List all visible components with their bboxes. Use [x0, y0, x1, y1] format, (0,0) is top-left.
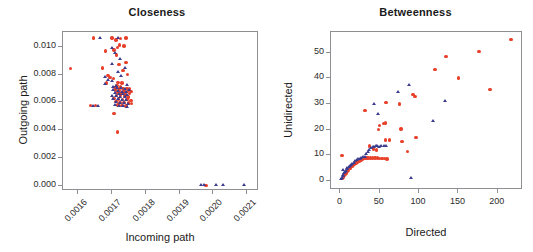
y-axis-title-closeness: Outgoing path	[17, 65, 29, 155]
y-tick-label: 0.006	[16, 95, 56, 105]
x-tick-label: 0.0021	[221, 197, 258, 234]
data-point-triangle	[123, 66, 127, 69]
data-point-circle	[433, 68, 436, 71]
scatter-points-betweenness	[331, 32, 521, 188]
x-tick-mark	[457, 189, 458, 193]
plot-area-betweenness	[330, 31, 522, 189]
data-point-circle	[413, 95, 416, 98]
y-tick-mark	[326, 103, 330, 104]
data-point-triangle	[363, 155, 367, 158]
data-point-circle	[398, 102, 401, 105]
data-point-triangle	[103, 82, 107, 85]
data-point-triangle	[431, 119, 435, 122]
data-point-triangle	[214, 183, 218, 186]
y-tick-mark	[58, 74, 62, 75]
data-point-triangle	[409, 176, 413, 179]
data-point-circle	[112, 112, 115, 115]
y-tick-label: 0.010	[16, 40, 56, 50]
x-tick-mark	[339, 189, 340, 193]
x-tick-mark	[77, 190, 78, 194]
x-tick-mark	[379, 189, 380, 193]
data-point-circle	[414, 136, 417, 139]
data-point-circle	[122, 44, 125, 47]
data-point-circle	[116, 130, 119, 133]
x-tick-label: 100	[398, 196, 438, 206]
y-tick-label: 0	[284, 174, 324, 184]
data-point-circle	[101, 66, 104, 69]
data-point-triangle	[202, 183, 206, 186]
data-point-circle	[375, 148, 378, 151]
data-point-circle	[399, 127, 402, 130]
y-tick-label: 30	[284, 97, 324, 107]
data-point-circle	[69, 67, 72, 70]
data-point-triangle	[91, 104, 95, 107]
data-point-circle	[130, 102, 133, 105]
x-tick-mark	[212, 190, 213, 194]
data-point-circle	[378, 124, 381, 127]
data-point-circle	[377, 128, 380, 131]
data-point-triangle	[376, 112, 380, 115]
x-tick-label: 150	[437, 196, 477, 206]
x-tick-mark	[246, 190, 247, 194]
data-point-circle	[384, 138, 387, 141]
x-tick-label: 0.0020	[188, 197, 225, 234]
y-tick-label: 0.008	[16, 68, 56, 78]
y-tick-mark	[58, 157, 62, 158]
data-point-triangle	[117, 104, 121, 107]
data-point-triangle	[396, 90, 400, 93]
data-point-triangle	[119, 74, 123, 77]
chart-title-betweenness: Betweenness	[270, 6, 533, 18]
data-point-triangle	[407, 83, 411, 86]
x-axis-title-betweenness: Directed	[330, 226, 522, 238]
y-tick-label: 0.000	[16, 179, 56, 189]
data-point-circle	[388, 138, 391, 141]
y-tick-mark	[58, 185, 62, 186]
data-point-triangle	[443, 99, 447, 102]
data-point-triangle	[125, 105, 129, 108]
x-tick-label: 200	[477, 196, 517, 206]
data-point-circle	[400, 140, 403, 143]
data-point-circle	[92, 36, 95, 39]
data-point-circle	[124, 61, 127, 64]
data-point-triangle	[98, 36, 102, 39]
y-tick-mark	[326, 180, 330, 181]
data-point-triangle	[221, 183, 225, 186]
y-tick-label: 0.002	[16, 151, 56, 161]
y-tick-label: 0.004	[16, 123, 56, 133]
data-point-triangle	[116, 36, 120, 39]
y-tick-label: 40	[284, 71, 324, 81]
data-point-circle	[385, 157, 388, 160]
data-point-circle	[124, 36, 127, 39]
chart-panel-closeness: Closeness Outgoing path Incoming path 0.…	[0, 0, 270, 252]
data-point-circle	[488, 88, 491, 91]
x-tick-mark	[418, 189, 419, 193]
y-tick-label: 20	[284, 123, 324, 133]
data-point-circle	[384, 101, 387, 104]
data-point-circle	[104, 49, 107, 52]
data-point-triangle	[125, 83, 129, 86]
data-point-circle	[363, 109, 366, 112]
y-tick-mark	[326, 52, 330, 53]
y-tick-mark	[326, 129, 330, 130]
data-point-circle	[116, 46, 119, 49]
data-point-triangle	[116, 70, 120, 73]
x-tick-label: 0	[319, 196, 359, 206]
y-tick-label: 10	[284, 148, 324, 158]
chart-title-closeness: Closeness	[0, 6, 292, 18]
x-tick-mark	[111, 190, 112, 194]
x-tick-mark	[179, 190, 180, 194]
data-point-circle	[477, 50, 480, 53]
x-tick-label: 0.0018	[120, 197, 157, 234]
y-tick-mark	[326, 154, 330, 155]
y-tick-mark	[58, 101, 62, 102]
data-point-triangle	[96, 104, 100, 107]
data-point-circle	[457, 76, 460, 79]
y-tick-mark	[58, 46, 62, 47]
plot-area-closeness	[62, 31, 258, 190]
data-point-circle	[509, 38, 512, 41]
data-point-circle	[117, 63, 120, 66]
y-tick-mark	[58, 129, 62, 130]
x-tick-label: 0.0019	[154, 197, 191, 234]
data-point-circle	[121, 69, 124, 72]
data-point-triangle	[110, 46, 114, 49]
